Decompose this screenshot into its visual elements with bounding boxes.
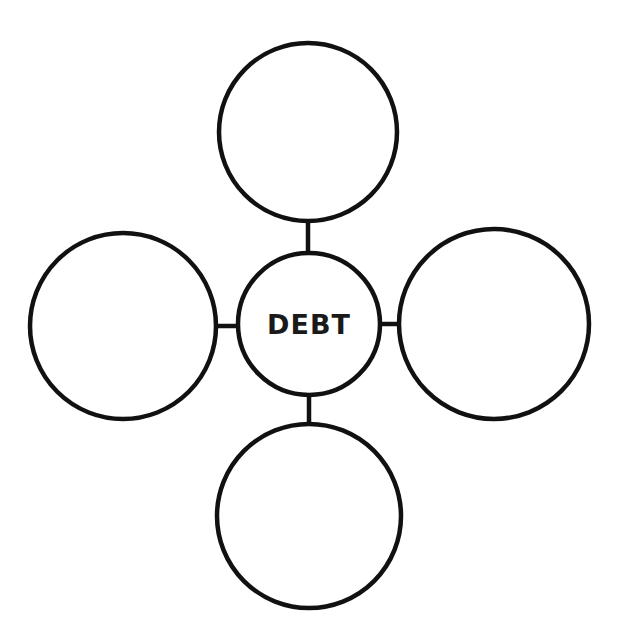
debt-concept-map: DEBT	[0, 0, 617, 635]
satellite-circle-bottom	[217, 424, 401, 608]
satellite-circle-left	[30, 233, 216, 419]
satellite-circle-top	[219, 43, 397, 221]
satellite-circle-right	[399, 229, 589, 419]
center-label: DEBT	[267, 309, 351, 340]
